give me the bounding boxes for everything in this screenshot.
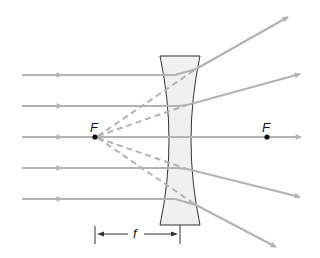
focal-label-right: F <box>262 121 270 134</box>
lens-diagram <box>0 0 320 258</box>
focal-point-right <box>264 134 269 139</box>
focal-point-left <box>92 134 97 139</box>
focal-length-dimension <box>95 225 180 244</box>
incident-rays <box>22 75 180 199</box>
focal-label-left: F <box>90 121 98 134</box>
focal-length-label: f <box>133 227 137 240</box>
